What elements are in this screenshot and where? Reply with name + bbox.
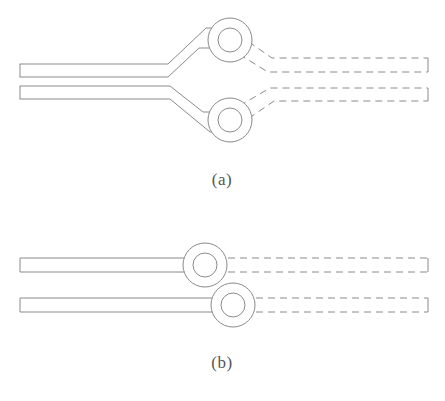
ring-bottom	[208, 98, 252, 142]
panel-b-rings	[183, 243, 255, 327]
ring-top	[183, 243, 227, 287]
ring-top-inner	[218, 28, 242, 52]
ring-top	[208, 18, 252, 62]
panel-a-rings	[208, 18, 252, 142]
ring-bottom-inner	[218, 108, 242, 132]
figure-container: (a)	[0, 0, 445, 401]
panel-a: (a)	[20, 18, 428, 189]
panel-a-solid-waveguides	[20, 28, 231, 132]
bus-lower-dashed	[229, 88, 428, 112]
panel-a-caption: (a)	[212, 170, 232, 189]
bus-upper-dashed	[229, 28, 428, 58]
ring-bottom	[211, 283, 255, 327]
ring-bottom-inner	[221, 293, 245, 317]
bus-upper-solid-lower-edge	[20, 48, 231, 77]
bus-upper-solid	[20, 28, 231, 64]
bus-upper-dashed-lower-edge	[229, 48, 428, 72]
panel-b-caption: (b)	[211, 353, 232, 372]
ring-top-inner	[193, 253, 217, 277]
bus-lower-dashed-lower-edge	[229, 101, 428, 132]
bus-lower-solid-lower-edge	[20, 99, 231, 132]
panel-b: (b)	[20, 243, 428, 372]
schematic-figure: (a)	[0, 0, 445, 401]
panel-a-dashed-waveguides	[229, 28, 428, 132]
